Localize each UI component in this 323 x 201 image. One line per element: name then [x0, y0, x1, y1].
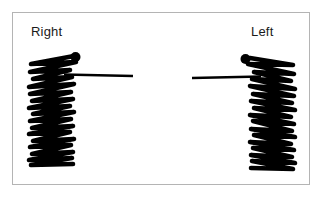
right-panel-label: Right — [31, 24, 62, 39]
right-marker-dot — [71, 52, 81, 62]
right-panel-graphics — [29, 52, 133, 165]
left-marker-dot — [241, 54, 251, 64]
left-horizontal-baseline — [192, 77, 261, 79]
right-horizontal-baseline — [64, 75, 133, 77]
left-panel-graphics — [192, 54, 295, 169]
figure-root: Right Left — [0, 0, 323, 201]
left-panel-label: Left — [251, 24, 273, 39]
